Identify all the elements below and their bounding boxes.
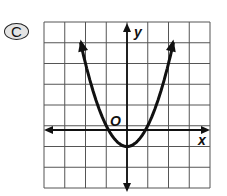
curve-arrow-right-icon [166,39,176,52]
parabola-graph: y x O [0,0,227,196]
origin-label: O [110,113,121,129]
curve-arrow-left-icon [78,39,88,52]
y-axis [123,23,131,192]
y-axis-label: y [133,24,143,40]
x-axis-label: x [197,132,207,148]
